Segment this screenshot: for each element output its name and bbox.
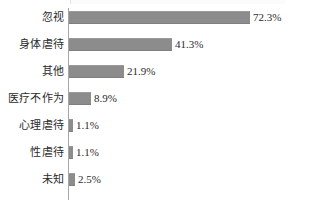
category-label: 其他: [0, 65, 64, 78]
bar-segment: [69, 173, 75, 186]
chart-row: 性虐待 1.1%: [0, 146, 325, 173]
value-label: 1.1%: [76, 146, 99, 159]
bar-segment: [69, 92, 91, 105]
value-label: 8.9%: [94, 92, 117, 105]
value-label: 72.3%: [253, 11, 281, 24]
bar-segment: [69, 146, 73, 159]
category-label: 忽视: [0, 11, 64, 24]
category-label: 医疗不作为: [0, 92, 64, 105]
chart-row: 忽视 72.3%: [0, 11, 325, 38]
chart-row: 其他 21.9%: [0, 65, 325, 92]
chart-row: 心理虐待 1.1%: [0, 119, 325, 146]
value-label: 41.3%: [175, 38, 203, 51]
category-label: 性虐待: [0, 146, 64, 159]
bar-segment: [69, 65, 124, 78]
category-label: 未知: [0, 173, 64, 186]
chart-row: 医疗不作为 8.9%: [0, 92, 325, 119]
value-label: 2.5%: [78, 173, 101, 186]
bar-chart: 忽视 72.3% 身体虐待 41.3% 其他 21.9% 医疗不作为 8.9% …: [0, 0, 325, 207]
category-label: 身体虐待: [0, 38, 64, 51]
value-label: 1.1%: [76, 119, 99, 132]
chart-row: 身体虐待 41.3%: [0, 38, 325, 65]
chart-row: 未知 2.5%: [0, 173, 325, 200]
bar-segment: [69, 38, 172, 51]
category-label: 心理虐待: [0, 119, 64, 132]
bar-segment: [69, 119, 73, 132]
bar-segment: [69, 11, 250, 24]
value-label: 21.9%: [127, 65, 155, 78]
plot-area: 忽视 72.3% 身体虐待 41.3% 其他 21.9% 医疗不作为 8.9% …: [0, 0, 325, 207]
